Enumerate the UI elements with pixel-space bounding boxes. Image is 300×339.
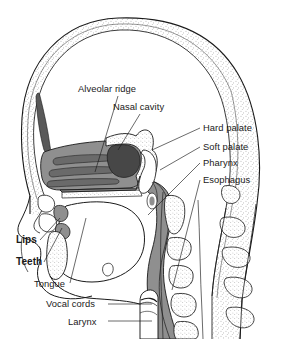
epiglottis	[103, 263, 114, 276]
label-pharynx: Pharynx	[203, 157, 238, 168]
uvula	[147, 193, 157, 209]
vocal-tract-diagram: Alveolar ridge Nasal cavity Hard palate …	[0, 0, 300, 339]
label-vocal-cords: Vocal cords	[46, 298, 95, 309]
mandible	[47, 231, 68, 279]
label-hard-palate: Hard palate	[203, 122, 252, 133]
label-tongue: Tongue	[34, 278, 65, 289]
label-teeth: Teeth	[16, 256, 42, 267]
nasopharynx	[107, 145, 140, 178]
label-larynx: Larynx	[68, 316, 97, 327]
larynx-body	[140, 290, 158, 339]
label-lips: Lips	[16, 234, 37, 245]
label-esophagus: Esophagus	[203, 174, 251, 185]
label-soft-palate: Soft palate	[203, 141, 248, 152]
label-alveolar-ridge: Alveolar ridge	[78, 83, 136, 94]
label-nasal-cavity: Nasal cavity	[113, 101, 164, 112]
